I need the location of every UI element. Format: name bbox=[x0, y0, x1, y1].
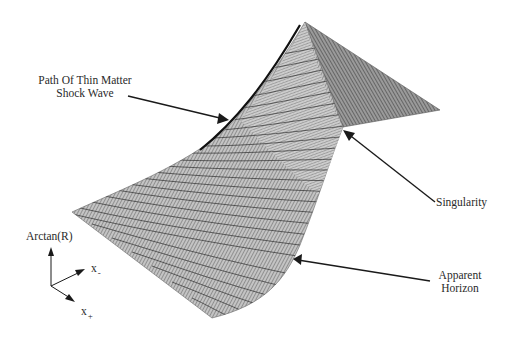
vertical-axis-arrowhead bbox=[48, 247, 54, 256]
x-plus-axis-label: x+ bbox=[81, 305, 92, 319]
apparent-horizon-label-line2: Horizon bbox=[430, 282, 490, 295]
singularity-arrow bbox=[347, 133, 435, 202]
apparent-horizon-arrow bbox=[298, 260, 430, 281]
shock-wave-label-line2: Shock Wave bbox=[30, 87, 140, 100]
shock-wave-label-line1: Path Of Thin Matter bbox=[30, 74, 140, 87]
shock-wave-label: Path Of Thin Matter Shock Wave bbox=[30, 74, 140, 100]
apparent-horizon-label: Apparent Horizon bbox=[430, 269, 490, 295]
x-plus-axis-line bbox=[51, 286, 70, 298]
shock-wave-arrowhead bbox=[217, 113, 229, 124]
shock-wave-arrow bbox=[128, 96, 224, 119]
singularity-arrowhead bbox=[343, 130, 355, 141]
x-plus-sub: + bbox=[88, 311, 93, 321]
x-minus-sub: - bbox=[98, 268, 101, 278]
x-minus-axis-label: x- bbox=[91, 262, 100, 276]
vertical-axis-label: Arctan(R) bbox=[26, 230, 73, 243]
apparent-horizon-label-line1: Apparent bbox=[430, 269, 490, 282]
singularity-label: Singularity bbox=[436, 196, 487, 209]
x-minus-axis-line bbox=[51, 272, 80, 286]
axis-triad bbox=[48, 247, 85, 302]
x-minus-base: x bbox=[91, 262, 97, 274]
x-plus-base: x bbox=[81, 305, 87, 317]
x-minus-arrowhead bbox=[75, 269, 85, 276]
